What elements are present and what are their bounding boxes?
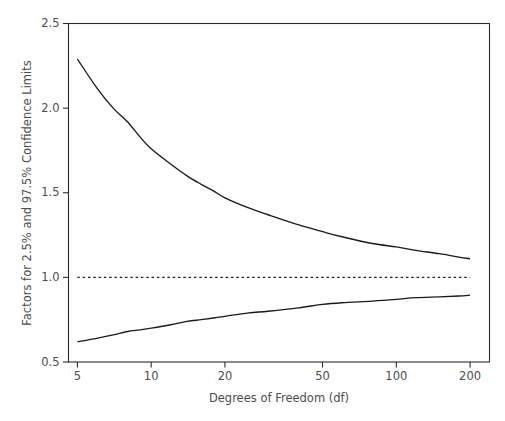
x-tick-label: 50: [315, 369, 330, 383]
y-axis-title: Factors for 2.5% and 97.5% Confidence Li…: [20, 60, 34, 325]
x-tick-label: 10: [144, 369, 159, 383]
x-tick-label: 200: [459, 369, 481, 383]
figure-background: [0, 0, 505, 421]
x-axis-title: Degrees of Freedom (df): [209, 391, 349, 405]
y-tick-label: 0.5: [41, 355, 59, 369]
y-tick-label: 2.5: [41, 16, 59, 30]
x-tick-label: 100: [385, 369, 407, 383]
y-tick-label: 1.0: [41, 270, 59, 284]
chart-figure: 0.51.01.52.02.5 5102050100200 Factors fo…: [0, 0, 505, 421]
x-tick-label: 20: [218, 369, 233, 383]
y-tick-label: 2.0: [41, 101, 59, 115]
chart-canvas: 0.51.01.52.02.5 5102050100200 Factors fo…: [0, 0, 505, 421]
x-tick-label: 5: [74, 369, 81, 383]
y-tick-label: 1.5: [41, 185, 59, 199]
